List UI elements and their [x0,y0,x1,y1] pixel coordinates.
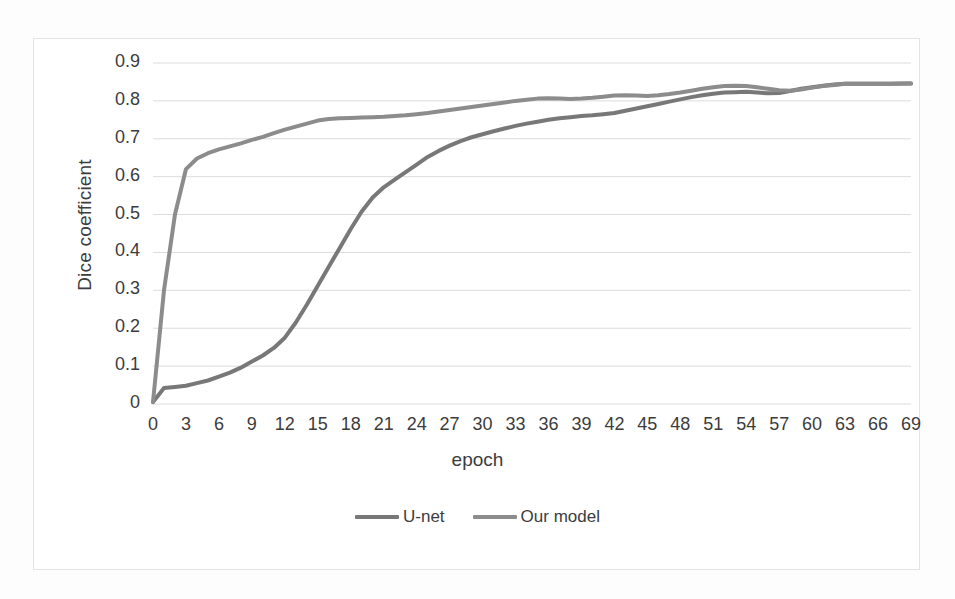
x-axis-title: epoch [34,449,921,471]
y-tick-label: 0.7 [74,127,140,148]
legend-label: U-net [403,507,445,527]
line-chart-plot [34,39,921,571]
series-line-u-net [153,83,911,402]
y-tick-label: 0.5 [74,203,140,224]
chart-frame: Dice coefficient epoch 00.10.20.30.40.50… [33,38,920,570]
y-tick-label: 0.1 [74,354,140,375]
x-tick-label: 69 [891,414,931,435]
legend-line-swatch [355,515,399,519]
y-tick-label: 0 [74,392,140,413]
chart-legend: U-netOur model [34,507,921,527]
legend-entry[interactable]: Our model [473,507,600,527]
y-tick-label: 0.2 [74,316,140,337]
y-tick-label: 0.9 [74,51,140,72]
figure-canvas: Dice coefficient epoch 00.10.20.30.40.50… [0,0,955,599]
legend-entry[interactable]: U-net [355,507,445,527]
legend-line-swatch [473,515,517,519]
y-tick-label: 0.8 [74,89,140,110]
legend-label: Our model [521,507,600,527]
y-tick-label: 0.6 [74,165,140,186]
y-tick-label: 0.3 [74,278,140,299]
y-tick-label: 0.4 [74,240,140,261]
